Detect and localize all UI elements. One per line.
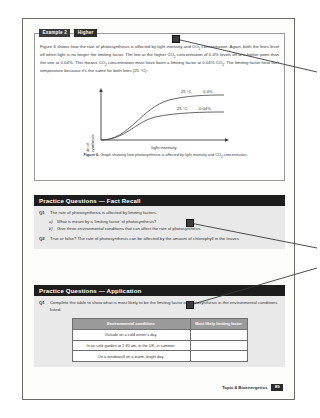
question-number: Q1 — [39, 300, 47, 313]
table-cell-condition: In an unlit garden at 1:30 am, in the UK… — [72, 340, 190, 351]
textbook-page: Example 2 Higher Figure 6 shows how the … — [22, 18, 295, 400]
sub-question-row: b) Give three environmental conditions t… — [49, 226, 280, 233]
table-cell-condition: On a windowsill on a warm, bright day. — [72, 351, 190, 362]
series-label-low: 25 °C — [177, 106, 188, 111]
higher-tier-tag: Higher — [74, 29, 97, 37]
table-header-limiting-factor: Most likely limiting factor — [190, 318, 247, 329]
example-paragraph: Figure 6 shows how the rate of photosynt… — [40, 44, 279, 75]
page-number: 89 — [271, 384, 283, 391]
svg-text:0.04%: 0.04% — [199, 106, 211, 111]
practice-questions-fact-recall: Practice Questions — Fact Recall Q1 The … — [34, 195, 285, 249]
question-number: Q1 — [39, 210, 47, 217]
photosynthesis-graph: rate of photosynthesis light intensity 2… — [69, 86, 249, 152]
question-row: Q1 The rate of photosynthesis is affecte… — [39, 210, 280, 217]
fact-recall-body: Q1 The rate of photosynthesis is affecte… — [34, 206, 285, 249]
footer-topic: Topic 4 Bioenergetics — [222, 385, 267, 390]
sub-question-text: What is meant by a 'limiting factor' of … — [57, 219, 280, 226]
table-cell-answer[interactable] — [190, 340, 247, 351]
figure-caption-text: Graph showing how photosynthesis is affe… — [99, 153, 247, 157]
application-heading: Practice Questions — Application — [34, 285, 285, 296]
x-axis-label: light intensity — [151, 145, 177, 150]
y-axis-label: rate of — [85, 142, 90, 152]
example-body-text: Figure 6 shows how the rate of photosynt… — [40, 44, 279, 75]
table-row: In an unlit garden at 1:30 am, in the UK… — [72, 340, 247, 351]
question-number: Q2 — [39, 236, 47, 243]
table-cell-condition: Outside on a cold winter's day. — [72, 330, 190, 341]
table-cell-answer[interactable] — [190, 351, 247, 362]
sub-question-label: b) — [49, 226, 54, 233]
figure-caption: Figure 6: Graph showing how photosynthes… — [65, 153, 266, 159]
table-row: On a windowsill on a warm, bright day. — [72, 351, 247, 362]
practice-questions-application: Practice Questions — Application Q1 Comp… — [34, 285, 285, 367]
series-label-high: 25 °C — [181, 89, 192, 94]
question-text: Complete the table to show what is most … — [50, 300, 280, 313]
footer-topic-name: Bioenergetics — [238, 385, 267, 390]
page-footer: Topic 4 Bioenergetics 89 — [222, 384, 283, 391]
callout-marker-application[interactable] — [186, 301, 194, 309]
footer-topic-label: Topic 4 — [222, 385, 237, 390]
application-body: Q1 Complete the table to show what is mo… — [34, 296, 285, 367]
svg-text:0.4%: 0.4% — [203, 89, 213, 94]
sub-question-text: Give three environmental conditions that… — [57, 226, 280, 233]
table-row: Outside on a cold winter's day. — [72, 330, 247, 341]
sub-question-label: a) — [49, 219, 54, 226]
svg-text:photosynthesis: photosynthesis — [90, 134, 95, 152]
table-header-row: Environmental conditions Most likely lim… — [72, 318, 247, 329]
fact-recall-heading: Practice Questions — Fact Recall — [34, 195, 285, 206]
callout-marker-fact-recall[interactable] — [186, 219, 194, 227]
example-number-tag: Example 2 — [39, 29, 70, 37]
question-text: True or false? The rate of photosynthesi… — [50, 236, 280, 243]
example-box: Example 2 Higher Figure 6 shows how the … — [34, 33, 285, 181]
callout-marker-example[interactable] — [172, 35, 180, 43]
sub-question-row: a) What is meant by a 'limiting factor' … — [49, 219, 280, 226]
question-row: Q1 Complete the table to show what is mo… — [39, 300, 280, 313]
example-tag-row: Example 2 Higher — [39, 29, 97, 37]
table-header-conditions: Environmental conditions — [72, 318, 190, 329]
question-row: Q2 True or false? The rate of photosynth… — [39, 236, 280, 243]
question-text: The rate of photosynthesis is affected b… — [50, 210, 280, 217]
limiting-factor-table: Environmental conditions Most likely lim… — [72, 318, 248, 362]
table-cell-answer[interactable] — [190, 330, 247, 341]
figure-caption-label: Figure 6: — [83, 153, 99, 157]
